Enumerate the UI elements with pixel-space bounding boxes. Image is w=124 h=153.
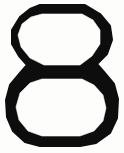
glyph-canvas: 8 The numeral 8 drawn as two stacked oct…: [0, 0, 124, 153]
digit-eight-upper-counter: [18, 14, 100, 65]
digit-eight-icon: [0, 0, 124, 153]
digit-eight-lower-counter: [16, 79, 106, 136]
glyph-group: [6, 5, 118, 146]
